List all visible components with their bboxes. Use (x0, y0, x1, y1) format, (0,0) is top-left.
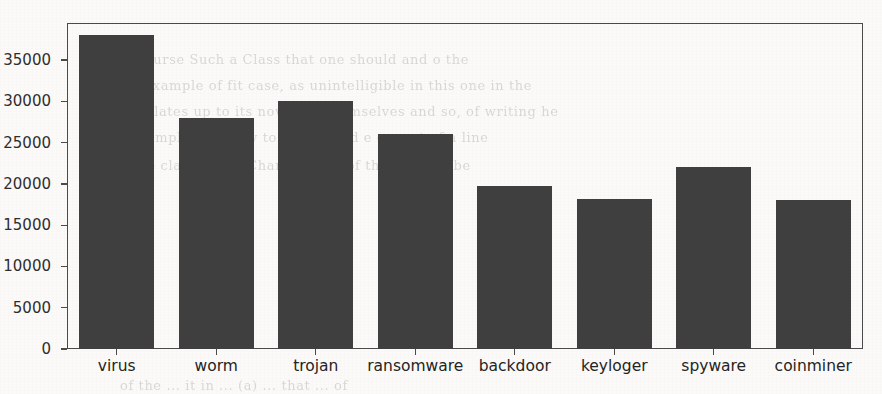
y-axis-tick-label: 5000 (0, 299, 61, 317)
bar-ransomware (378, 134, 453, 349)
chart-screenshot: of the Course Such a Class that one shou… (0, 0, 882, 394)
bar-spyware (676, 167, 751, 349)
ghost-text-line-bottom: of the ... it in ... (a) ... that ... of (120, 378, 348, 393)
y-axis-tick-label: 30000 (0, 92, 61, 110)
bar-series (67, 23, 863, 349)
bar-coinminer (776, 200, 851, 349)
y-axis-tick-label: 35000 (0, 51, 61, 69)
bar-worm (179, 118, 254, 349)
x-axis-tick-mark (315, 349, 316, 355)
x-axis-tick-mark (116, 349, 117, 355)
y-axis-tick-label: 15000 (0, 216, 61, 234)
bar-trojan (278, 101, 353, 349)
x-axis-tick-label-trojan: trojan (293, 357, 338, 375)
bar-virus (79, 35, 154, 349)
bar-backdoor (477, 186, 552, 349)
x-axis-tick-label-spyware: spyware (681, 357, 746, 375)
x-axis-tick-mark (415, 349, 416, 355)
x-axis-tick-label-coinminer: coinminer (775, 357, 852, 375)
x-axis-tick-mark (216, 349, 217, 355)
x-axis-tick-label-worm: worm (195, 357, 238, 375)
y-axis-tick-label: 10000 (0, 257, 61, 275)
x-axis-tick-mark (713, 349, 714, 355)
y-axis-tick-label: 0 (0, 340, 61, 358)
x-axis-tick-label-virus: virus (98, 357, 136, 375)
bar-keyloger (577, 199, 652, 349)
x-axis-tick-mark (614, 349, 615, 355)
x-axis-tick-mark (514, 349, 515, 355)
x-axis-tick-label-backdoor: backdoor (479, 357, 551, 375)
y-axis-tick-label: 25000 (0, 134, 61, 152)
x-axis-tick-label-ransomware: ransomware (367, 357, 463, 375)
y-axis-tick-label: 20000 (0, 175, 61, 193)
x-axis-tick-label-keyloger: keyloger (581, 357, 648, 375)
x-axis-tick-mark (813, 349, 814, 355)
